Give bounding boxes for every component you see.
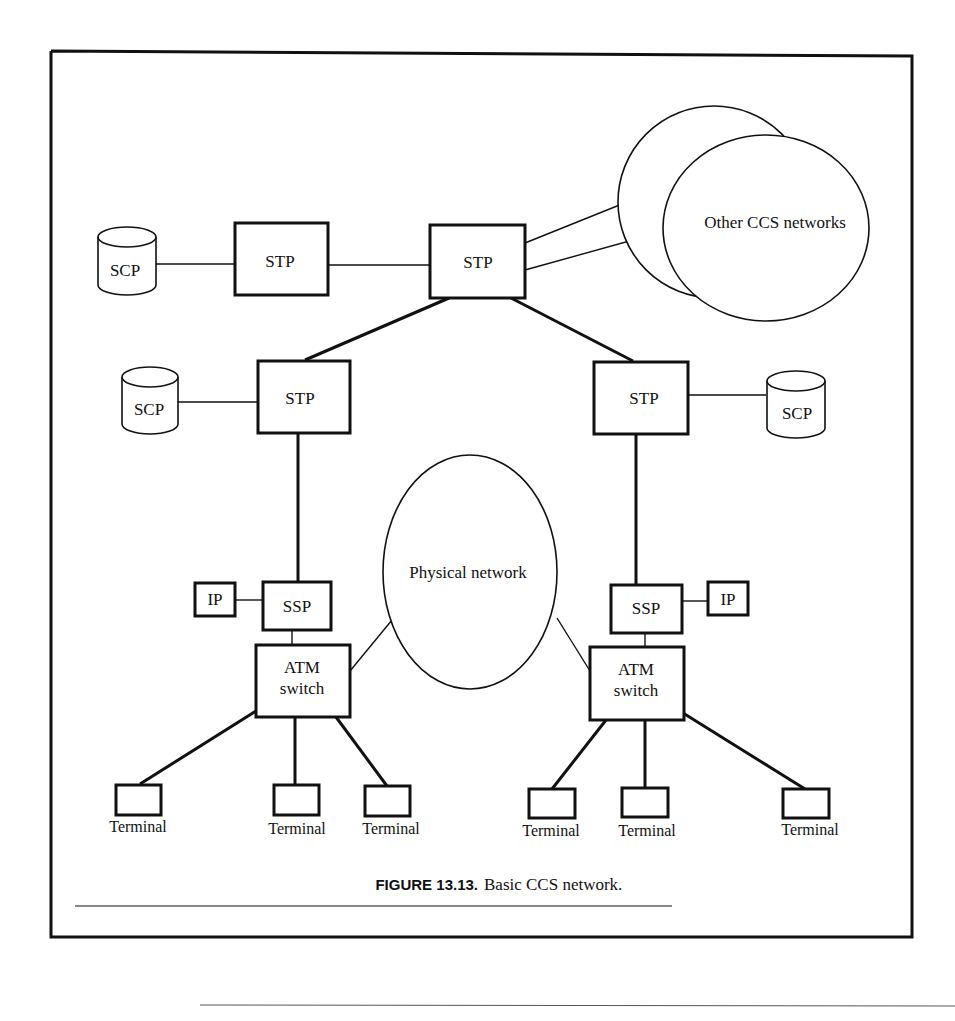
ssp-right: SSP bbox=[611, 585, 682, 633]
atm-switch-right: ATM switch bbox=[590, 647, 684, 720]
link-stp-left bbox=[305, 298, 449, 360]
terminal-3: Terminal bbox=[362, 786, 420, 837]
link-stp-other1 bbox=[525, 204, 622, 243]
terminal-6: Terminal bbox=[781, 789, 839, 838]
terminal-1: Terminal bbox=[109, 785, 167, 835]
stp-mid-right: STP bbox=[594, 362, 688, 434]
link-atm-phys-left bbox=[350, 620, 392, 671]
svg-text:STP: STP bbox=[463, 253, 492, 272]
ip-left: IP bbox=[195, 583, 235, 616]
terminal-4: Terminal bbox=[522, 789, 580, 839]
link-atm-term1 bbox=[140, 711, 256, 784]
link-stp-right bbox=[511, 298, 633, 361]
svg-text:switch: switch bbox=[614, 681, 659, 700]
svg-text:STP: STP bbox=[265, 252, 294, 271]
page-rule bbox=[200, 1005, 955, 1006]
svg-text:Terminal: Terminal bbox=[781, 821, 839, 838]
other-ccs-networks: Other CCS networks bbox=[618, 106, 869, 321]
caption-text: Basic CCS network. bbox=[484, 875, 622, 894]
scp-mid-right-cylinder: SCP bbox=[767, 371, 825, 438]
svg-text:IP: IP bbox=[720, 590, 735, 609]
svg-text:SCP: SCP bbox=[134, 400, 164, 419]
svg-text:Terminal: Terminal bbox=[362, 820, 420, 837]
svg-text:SSP: SSP bbox=[632, 599, 660, 618]
stp-top-center: STP bbox=[430, 225, 525, 298]
svg-text:Physical network: Physical network bbox=[409, 563, 527, 582]
atm-switch-left: ATM switch bbox=[256, 645, 350, 717]
link-atm-term4 bbox=[552, 720, 606, 789]
ip-right: IP bbox=[708, 582, 748, 615]
scp-top-cylinder: SCP bbox=[98, 227, 156, 295]
figure-caption: FIGURE 13.13. Basic CCS network. bbox=[375, 875, 622, 894]
svg-text:SCP: SCP bbox=[110, 261, 140, 280]
svg-text:Terminal: Terminal bbox=[618, 822, 676, 839]
svg-text:IP: IP bbox=[207, 590, 222, 609]
scp-mid-left-cylinder: SCP bbox=[122, 367, 178, 434]
ccs-network-diagram: Other CCS networks Physical network SCP … bbox=[0, 0, 955, 1021]
terminal-5: Terminal bbox=[618, 788, 676, 839]
physical-network: Physical network bbox=[383, 455, 557, 689]
svg-text:ATM: ATM bbox=[618, 660, 654, 679]
svg-text:Other CCS networks: Other CCS networks bbox=[704, 213, 846, 232]
svg-text:STP: STP bbox=[285, 389, 314, 408]
stp-top-left: STP bbox=[235, 223, 328, 295]
stp-mid-left: STP bbox=[258, 361, 350, 433]
caption-number: FIGURE 13.13. bbox=[375, 876, 478, 893]
svg-text:switch: switch bbox=[280, 679, 325, 698]
svg-text:SCP: SCP bbox=[782, 404, 812, 423]
link-atm-term3 bbox=[336, 717, 387, 786]
svg-text:Terminal: Terminal bbox=[109, 818, 167, 835]
svg-text:Terminal: Terminal bbox=[522, 822, 580, 839]
svg-text:ATM: ATM bbox=[284, 658, 320, 677]
ssp-left: SSP bbox=[263, 582, 331, 630]
svg-text:STP: STP bbox=[629, 389, 658, 408]
terminal-2: Terminal bbox=[268, 785, 326, 837]
link-atm-phys-right bbox=[557, 618, 590, 671]
svg-text:SSP: SSP bbox=[283, 597, 311, 616]
link-atm-term6 bbox=[683, 713, 805, 789]
svg-text:Terminal: Terminal bbox=[268, 820, 326, 837]
